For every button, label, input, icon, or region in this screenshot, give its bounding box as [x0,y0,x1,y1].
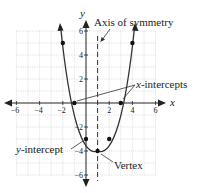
y-tick-label: −6 [74,171,83,180]
point-4-5 [130,41,134,45]
y-intercept-label: y-intercept [15,143,63,155]
x-axis-right-arrow-icon [158,100,166,107]
y-intercept-text: -intercept [21,143,63,155]
y-axis-down-arrow-icon [83,179,90,187]
y-intercept-point [84,137,88,141]
x-intercepts-text: -intercepts [141,78,187,90]
curve-left-arrow-icon [58,23,64,31]
axis-of-symmetry-label: Axis of symmetry [94,16,174,28]
parabola-graph: −6 −4 −2 2 4 6 6 4 2 −2 −4 −6 x y Axis o… [0,0,202,193]
y-tick-label: 2 [79,75,83,84]
vertex-point [95,149,99,153]
vertex-label: Vertex [114,159,143,171]
x-intercept-point-3 [119,101,123,105]
x-axis-label: x [169,96,175,108]
x-intercepts-label: x-intercepts [135,78,187,90]
pointer-arrow-icon [101,37,106,42]
y-tick-label: 4 [79,51,83,60]
x-tick-label: −6 [11,106,20,115]
x-tick-label: 4 [130,106,134,115]
x-tick-label: 6 [154,106,158,115]
vertex-pointer [101,154,113,162]
x-intercept-point-neg1 [72,101,76,105]
x-tick-label: −2 [57,106,66,115]
y-axis-label: y [79,7,85,19]
point-2-neg3 [107,137,111,141]
x-tick-label: −4 [34,106,43,115]
point-neg2-5 [61,41,65,45]
y-tick-label: 6 [79,27,83,36]
x-tick-label: 2 [107,106,111,115]
x-intercepts-pointer-right [123,85,135,99]
y-tick-label: −4 [74,147,83,156]
y-axis-up-arrow-icon [83,20,90,28]
